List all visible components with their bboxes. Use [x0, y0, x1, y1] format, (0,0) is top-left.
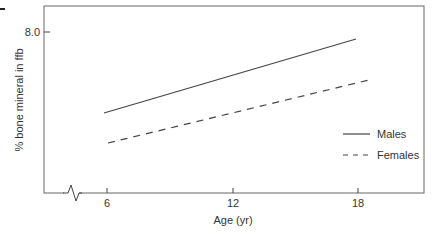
x-axis-label: Age (yr) — [213, 214, 252, 226]
legend-females-label: Females — [377, 149, 420, 161]
y-tick-label-8: 8.0 — [25, 26, 40, 38]
y-axis-label: % bone mineral in ffb — [13, 48, 25, 151]
x-tick-label-6: 6 — [104, 197, 110, 209]
bone-mineral-chart: 8.0 6 12 18 Age (yr) % bone mineral in f… — [0, 0, 440, 237]
females-line — [108, 79, 373, 143]
x-tick-label-12: 12 — [227, 197, 239, 209]
legend-males-label: Males — [377, 128, 407, 140]
x-tick-label-18: 18 — [352, 197, 364, 209]
plot-frame — [44, 6, 424, 193]
males-line — [104, 39, 356, 113]
